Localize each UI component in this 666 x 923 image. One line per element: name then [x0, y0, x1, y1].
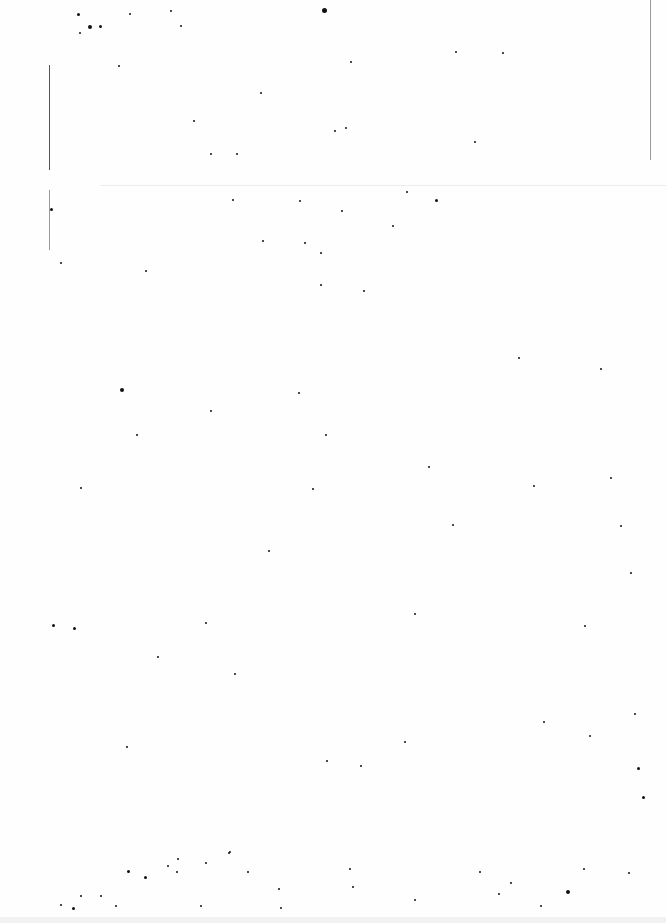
speckle [170, 10, 172, 12]
speckle [80, 895, 82, 897]
speckle [298, 392, 300, 394]
speckle [630, 572, 632, 574]
speckle [52, 624, 55, 627]
speckle [479, 871, 481, 873]
speckle [584, 625, 586, 627]
speckle [260, 92, 262, 94]
speckle [60, 904, 62, 906]
speckle [278, 888, 280, 890]
speckle [341, 210, 343, 212]
speckle [363, 290, 365, 292]
speckle [299, 200, 301, 202]
speckle [205, 622, 207, 624]
speckle [60, 262, 62, 264]
speckle [322, 8, 327, 13]
speckle [144, 876, 147, 879]
speckle [118, 65, 120, 67]
left-border-line-lower [49, 190, 50, 250]
speckle [620, 525, 622, 527]
speckle [210, 410, 212, 412]
speckle [100, 895, 102, 897]
speckle [533, 485, 535, 487]
speckle [232, 199, 234, 201]
speckle [120, 388, 124, 392]
speckle [642, 796, 645, 799]
page-bottom-edge [0, 917, 666, 923]
speckle [320, 284, 322, 286]
speckle [236, 153, 238, 155]
speckle [126, 746, 128, 748]
speckle [167, 865, 169, 867]
speckle [177, 858, 179, 860]
speckle [474, 141, 476, 143]
speckle [145, 270, 147, 272]
speckle [129, 13, 131, 15]
speckle [435, 199, 438, 202]
right-border-line [650, 0, 651, 160]
speckle [72, 907, 75, 910]
blank-scanned-page [0, 0, 666, 923]
speckle [262, 240, 264, 242]
speckle [280, 907, 282, 909]
speckle [360, 765, 362, 767]
speckle [200, 905, 202, 907]
speckle [583, 868, 585, 870]
speckle [210, 153, 212, 155]
speckle [326, 760, 328, 762]
speckle [637, 767, 640, 770]
speckle [352, 886, 354, 888]
speckle [73, 627, 76, 630]
speckle [234, 673, 236, 675]
speckle [77, 13, 80, 16]
speckle [543, 721, 545, 723]
speckle [325, 434, 327, 436]
speckle [600, 368, 602, 370]
speckle [502, 52, 504, 54]
speckle [589, 735, 591, 737]
speckle [176, 871, 178, 873]
speckle [414, 899, 416, 901]
speckle [228, 852, 230, 854]
speckle [127, 870, 130, 873]
speckle [406, 191, 408, 193]
speckle [115, 905, 117, 907]
speckle [428, 466, 430, 468]
left-border-line [49, 65, 50, 170]
speckle [392, 225, 394, 227]
speckle [634, 713, 636, 715]
speckle [566, 890, 570, 894]
speckle [510, 882, 512, 884]
speckle [136, 434, 138, 436]
speckle [50, 208, 53, 211]
speckle [268, 550, 270, 552]
speckle [180, 25, 182, 27]
speckle [349, 868, 351, 870]
speckle [404, 741, 406, 743]
speckle [628, 872, 630, 874]
speckle [88, 25, 92, 29]
speckle [320, 252, 322, 254]
speckle [157, 656, 159, 658]
speckle [452, 524, 454, 526]
speckle [518, 357, 520, 359]
speckle [312, 488, 314, 490]
speckle [247, 871, 249, 873]
faint-horizontal-crease [100, 185, 666, 186]
speckle [498, 893, 500, 895]
speckle [540, 905, 542, 907]
speckle [334, 130, 336, 132]
speckle [304, 242, 306, 244]
speckle [79, 32, 81, 34]
speckle [610, 477, 612, 479]
speckle [80, 487, 82, 489]
speckle [193, 120, 195, 122]
speckle [345, 127, 347, 129]
speckle [414, 613, 416, 615]
speckle [205, 862, 207, 864]
speckle [99, 25, 102, 28]
speckle [350, 61, 352, 63]
speckle [455, 51, 457, 53]
